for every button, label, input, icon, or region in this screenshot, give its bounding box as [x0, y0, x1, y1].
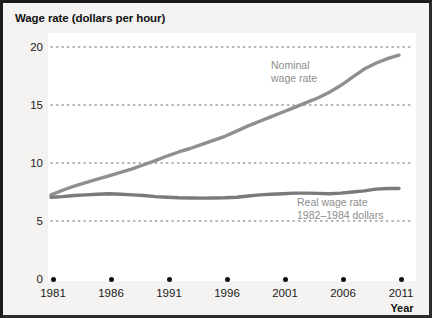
x-tick-label-2006: 2006 [323, 287, 363, 299]
x-tick-dot-1991 [167, 277, 172, 282]
x-tick-label-1991: 1991 [149, 287, 189, 299]
nominal-annotation-line-1: Nominal [271, 59, 310, 71]
chart-figure: Wage rate (dollars per hour) 20 15 10 5 … [0, 0, 432, 318]
x-tick-dot-1996 [225, 277, 230, 282]
x-tick-label-1981: 1981 [33, 287, 73, 299]
chart-canvas [3, 3, 432, 318]
x-tick-dot-2006 [341, 277, 346, 282]
x-tick-label-1996: 1996 [207, 287, 247, 299]
x-tick-label-2011: 2011 [381, 287, 421, 299]
nominal-wage-annotation: Nominal wage rate [271, 59, 317, 85]
x-tick-dot-1986 [109, 277, 114, 282]
nominal-annotation-line-2: wage rate [271, 72, 317, 84]
x-tick-dot-2011 [399, 277, 404, 282]
x-tick-label-1986: 1986 [91, 287, 131, 299]
nominal-wage-line [51, 55, 399, 195]
real-wage-annotation: Real wage rate 1982–1984 dollars [297, 196, 383, 222]
real-annotation-line-2: 1982–1984 dollars [297, 209, 383, 221]
data-lines [51, 55, 399, 198]
x-axis-title: Year [379, 302, 425, 314]
x-tick-dot-1981 [51, 277, 56, 282]
real-annotation-line-1: Real wage rate [297, 196, 368, 208]
x-tick-label-2001: 2001 [265, 287, 305, 299]
x-tick-dot-2001 [283, 277, 288, 282]
